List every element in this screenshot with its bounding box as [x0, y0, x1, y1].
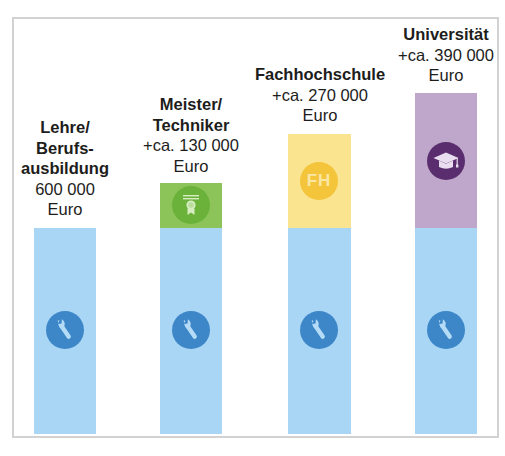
label-title-line: Berufs-: [0, 138, 135, 159]
label-title-line: Techniker: [121, 115, 261, 136]
label-value: +ca. 130 000: [121, 135, 261, 156]
graduation-cap-icon: [427, 142, 465, 180]
label-title-line: Lehre/: [0, 117, 135, 138]
label-meister: Meister/ Techniker +ca. 130 000 Euro: [121, 94, 261, 176]
label-title-line: ausbildung: [0, 158, 135, 179]
bar-lehre: [34, 228, 96, 434]
label-fachhochschule: Fachhochschule +ca. 270 000 Euro: [250, 64, 390, 126]
label-unit: Euro: [0, 199, 135, 220]
wrench-icon: [172, 311, 210, 349]
wrench-icon: [427, 311, 465, 349]
certificate-icon: [172, 186, 210, 224]
label-unit: Euro: [250, 105, 390, 126]
label-title-line: Meister/: [121, 94, 261, 115]
label-unit: Euro: [121, 156, 261, 177]
label-title-line: Fachhochschule: [250, 64, 390, 85]
fh-icon-text: FH: [307, 171, 332, 191]
label-unit: Euro: [376, 65, 505, 86]
wrench-icon: [46, 311, 84, 349]
bar-meister: [160, 183, 222, 434]
label-lehre: Lehre/ Berufs- ausbildung 600 000 Euro: [0, 117, 135, 220]
wrench-icon: [300, 311, 338, 349]
fh-icon: FH: [300, 162, 338, 200]
label-title-line: Universität: [376, 24, 505, 45]
label-value: +ca. 270 000: [250, 85, 390, 106]
label-value: +ca. 390 000: [376, 45, 505, 66]
bar-universitaet: [415, 93, 477, 434]
bar-fachhochschule: FH: [288, 134, 351, 434]
label-universitaet: Universität +ca. 390 000 Euro: [376, 24, 505, 86]
label-value: 600 000: [0, 179, 135, 200]
